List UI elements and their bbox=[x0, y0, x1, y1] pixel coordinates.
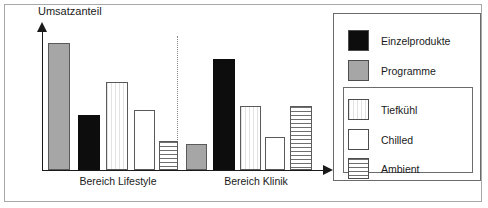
bar bbox=[134, 110, 155, 170]
legend-swatch-icon bbox=[348, 129, 369, 150]
legend-swatch-icon bbox=[348, 30, 369, 51]
bar bbox=[186, 144, 207, 170]
bar bbox=[48, 43, 70, 170]
bar bbox=[265, 137, 285, 170]
legend-item: Ambient bbox=[348, 158, 420, 179]
bar bbox=[240, 106, 261, 170]
legend-item: Einzelprodukte bbox=[348, 30, 450, 51]
bar bbox=[290, 106, 312, 170]
legend-item-label: Einzelprodukte bbox=[381, 35, 450, 47]
bar bbox=[106, 82, 128, 170]
legend-swatch-icon bbox=[348, 158, 369, 179]
x-axis-group-label: Bereich Klinik bbox=[200, 175, 312, 187]
legend-item: Chilled bbox=[348, 129, 413, 150]
legend-swatch-icon bbox=[348, 60, 369, 81]
legend-item-label: Programme bbox=[381, 65, 436, 77]
legend: EinzelprodukteProgrammeTiefkühlChilledAm… bbox=[333, 13, 481, 181]
legend-item-label: Tiefkühl bbox=[381, 104, 417, 116]
chart-page: Umsatzanteil Bereich LifestyleBereich Kl… bbox=[0, 0, 488, 208]
legend-swatch-icon bbox=[348, 99, 369, 120]
x-axis-group-label: Bereich Lifestyle bbox=[58, 175, 178, 187]
bar bbox=[78, 115, 100, 170]
legend-item: Tiefkühl bbox=[348, 99, 417, 120]
bar bbox=[213, 59, 235, 170]
x-axis-line bbox=[42, 170, 324, 171]
legend-item-label: Chilled bbox=[381, 134, 413, 146]
bar bbox=[159, 141, 178, 170]
legend-item: Programme bbox=[348, 60, 436, 81]
legend-item-label: Ambient bbox=[381, 163, 420, 175]
